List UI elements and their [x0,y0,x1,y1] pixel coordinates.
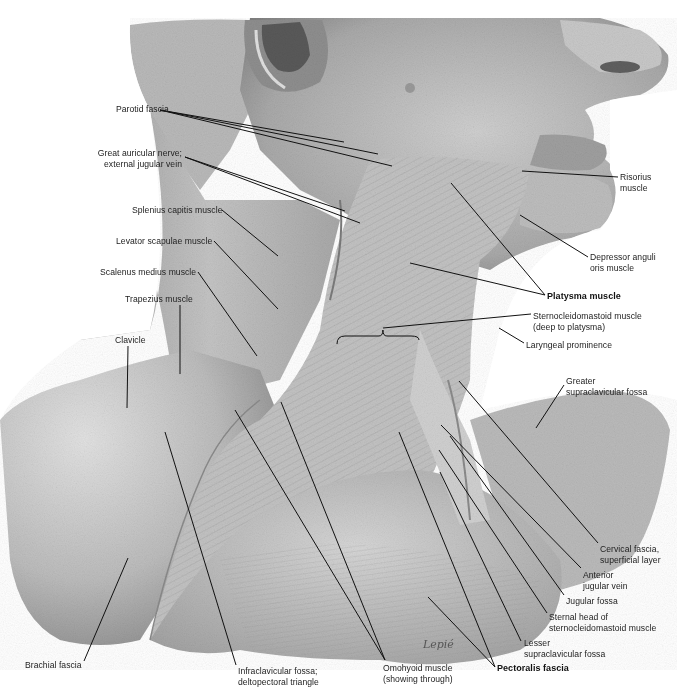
label-great-auricular-nerve: Great auricular nerve;external jugular v… [98,148,182,170]
label-infraclavicular-fossa: Infraclavicular fossa;deltopectoral tria… [238,666,319,688]
label-line: Risorius [620,172,651,183]
label-line: Omohyoid muscle [383,663,453,674]
label-pectoralis-fascia: Pectoralis fascia [497,663,569,674]
label-scalenus-medius: Scalenus medius muscle [100,267,196,278]
label-line: deltopectoral triangle [238,677,319,688]
label-line: Laryngeal prominence [526,340,612,351]
label-line: supraclavicular fossa [566,387,647,398]
label-brachial-fascia: Brachial fascia [25,660,82,671]
label-sternal-head: Sternal head ofsternocleidomastoid muscl… [549,612,656,634]
label-sternocleidomastoid-deep: Sternocleidomastoid muscle(deep to platy… [533,311,642,333]
label-levator-scapulae: Levator scapulae muscle [116,236,212,247]
label-line: Cervical fascia, [600,544,661,555]
label-line: sternocleidomastoid muscle [549,623,656,634]
label-line: Greater [566,376,647,387]
label-line: Scalenus medius muscle [100,267,196,278]
label-jugular-fossa: Jugular fossa [566,596,618,607]
label-line: oris muscle [590,263,656,274]
label-line: external jugular vein [98,159,182,170]
label-cervical-fascia: Cervical fascia,superficial layer [600,544,661,566]
label-line: Lesser [524,638,605,649]
label-line: Splenius capitis muscle [132,205,222,216]
label-line: Platysma muscle [547,291,621,302]
label-risorius: Risoriusmuscle [620,172,651,194]
label-line: Jugular fossa [566,596,618,607]
label-line: supraclavicular fossa [524,649,605,660]
artist-signature: Lepié [422,638,454,651]
label-parotid-fascia: Parotid fascia [116,104,169,115]
label-line: (showing through) [383,674,453,685]
anatomy-figure: Lepié Parotid fasciaGreat auricular nerv… [0,0,677,695]
label-line: Levator scapulae muscle [116,236,212,247]
label-line: Pectoralis fascia [497,663,569,674]
label-line: muscle [620,183,651,194]
label-line: Depressor anguli [590,252,656,263]
mask-bottom [0,670,677,695]
label-line: Brachial fascia [25,660,82,671]
label-depressor-anguli-oris: Depressor angulioris muscle [590,252,656,274]
label-greater-supraclavicular-fossa: Greatersupraclavicular fossa [566,376,647,398]
label-line: superficial layer [600,555,661,566]
label-anterior-jugular-vein: Anteriorjugular vein [583,570,628,592]
label-line: Parotid fascia [116,104,169,115]
label-line: Trapezius muscle [125,294,193,305]
label-line: jugular vein [583,581,628,592]
label-line: Great auricular nerve; [98,148,182,159]
label-laryngeal-prominence: Laryngeal prominence [526,340,612,351]
label-splenius-capitis: Splenius capitis muscle [132,205,222,216]
label-line: Clavicle [115,335,146,346]
label-line: Anterior [583,570,628,581]
label-line: Sternal head of [549,612,656,623]
label-omohyoid: Omohyoid muscle(showing through) [383,663,453,685]
label-clavicle: Clavicle [115,335,146,346]
label-line: Infraclavicular fossa; [238,666,319,677]
label-platysma: Platysma muscle [547,291,621,302]
label-line: Sternocleidomastoid muscle [533,311,642,322]
label-line: (deep to platysma) [533,322,642,333]
label-lesser-supraclavicular-fossa: Lessersupraclavicular fossa [524,638,605,660]
label-trapezius: Trapezius muscle [125,294,193,305]
